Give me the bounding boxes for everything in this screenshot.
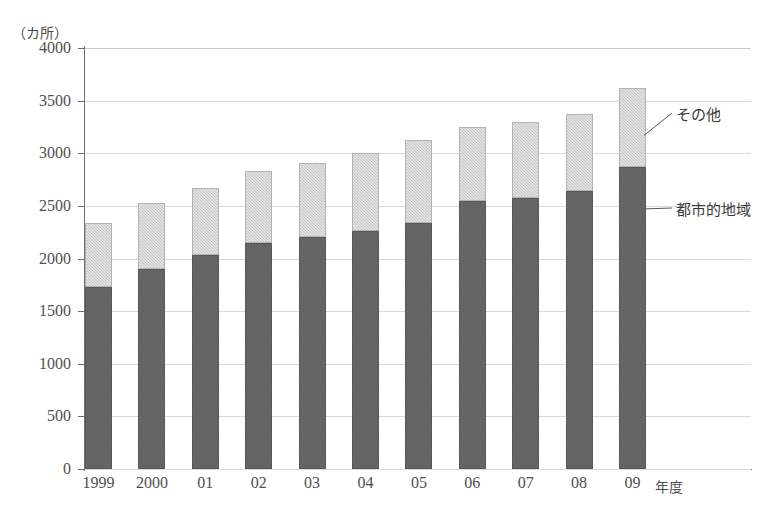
bar-segment-other bbox=[85, 223, 112, 287]
x-axis-tick-label: 09 bbox=[605, 474, 661, 492]
bar-segment-other bbox=[138, 203, 165, 269]
x-axis-tick-label: 1999 bbox=[71, 474, 127, 492]
x-axis-tick-label: 2000 bbox=[124, 474, 180, 492]
callout-leader-line bbox=[644, 113, 676, 139]
y-axis-tick bbox=[78, 311, 85, 312]
bar-segment-other bbox=[619, 88, 646, 167]
y-axis-tick-label: 3500 bbox=[19, 92, 71, 110]
bar-segment-urban bbox=[138, 269, 165, 469]
callout-label-urban: 都市的地域 bbox=[676, 198, 751, 219]
y-axis-tick-label: 4000 bbox=[19, 39, 71, 57]
bar-segment-other bbox=[459, 127, 486, 200]
plot-area: 40003500300025002000150010005000 bbox=[85, 48, 751, 469]
stacked-bar-chart: （カ所） 40003500300025002000150010005000 19… bbox=[0, 0, 777, 516]
gridline bbox=[85, 101, 751, 102]
x-axis-tick-label: 05 bbox=[391, 474, 447, 492]
x-axis-tick-label: 06 bbox=[444, 474, 500, 492]
bar-segment-urban bbox=[459, 201, 486, 469]
y-axis-tick bbox=[78, 364, 85, 365]
bar-segment-urban bbox=[405, 223, 432, 469]
bar-segment-urban bbox=[619, 167, 646, 469]
y-axis-tick-label: 3000 bbox=[19, 144, 71, 162]
y-axis-tick bbox=[78, 469, 85, 470]
y-axis-tick-label: 0 bbox=[19, 460, 71, 478]
y-axis-tick bbox=[78, 153, 85, 154]
y-axis-tick-label: 500 bbox=[19, 407, 71, 425]
gridline bbox=[85, 48, 751, 49]
bar-segment-urban bbox=[85, 287, 112, 469]
x-axis-tick-label: 01 bbox=[177, 474, 233, 492]
y-axis-tick bbox=[78, 206, 85, 207]
y-axis-tick-label: 1500 bbox=[19, 302, 71, 320]
y-axis-tick-label: 2000 bbox=[19, 250, 71, 268]
bar-segment-other bbox=[192, 188, 219, 255]
callout-label-other: その他 bbox=[676, 103, 721, 124]
x-axis-tick-label: 04 bbox=[338, 474, 394, 492]
y-axis-tick bbox=[78, 48, 85, 49]
bar-segment-other bbox=[245, 171, 272, 243]
bar-segment-urban bbox=[566, 191, 593, 469]
bar-segment-urban bbox=[245, 243, 272, 469]
callout-leader-line bbox=[644, 208, 676, 213]
bar-segment-urban bbox=[512, 198, 539, 469]
bar-segment-urban bbox=[299, 237, 326, 469]
gridline bbox=[85, 469, 751, 470]
y-axis-tick-label: 1000 bbox=[19, 355, 71, 373]
x-axis-tick-label: 02 bbox=[231, 474, 287, 492]
bar-segment-other bbox=[512, 122, 539, 198]
x-axis-tick-label: 03 bbox=[284, 474, 340, 492]
y-axis-tick bbox=[78, 416, 85, 417]
bar-segment-other bbox=[405, 140, 432, 223]
y-axis-tick bbox=[78, 101, 85, 102]
y-axis-tick-label: 2500 bbox=[19, 197, 71, 215]
y-axis-tick bbox=[78, 259, 85, 260]
bar-segment-other bbox=[299, 163, 326, 237]
bar-segment-urban bbox=[192, 255, 219, 469]
x-axis-tick-label: 07 bbox=[498, 474, 554, 492]
x-axis-tick-label: 08 bbox=[551, 474, 607, 492]
bar-segment-other bbox=[352, 153, 379, 231]
bar-segment-urban bbox=[352, 231, 379, 469]
bar-segment-other bbox=[566, 114, 593, 191]
x-axis-unit-label: 年度 bbox=[655, 476, 683, 496]
